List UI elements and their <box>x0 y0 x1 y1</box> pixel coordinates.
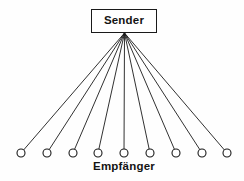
receiver-node[interactable] <box>223 149 231 157</box>
connection-line <box>24 33 125 150</box>
connection-line <box>125 33 150 149</box>
diagram-canvas: Sender Empfänger <box>0 0 244 181</box>
receiver-node[interactable] <box>69 149 77 157</box>
receiver-node[interactable] <box>120 149 128 157</box>
connection-line <box>125 33 175 149</box>
connection-line <box>49 33 124 150</box>
receiver-node[interactable] <box>94 149 102 157</box>
receiver-nodes-group <box>17 149 231 157</box>
receiver-node[interactable] <box>198 149 206 157</box>
connection-line <box>75 33 125 149</box>
receivers-group-label: Empfänger <box>0 161 244 173</box>
receiver-node[interactable] <box>146 149 154 157</box>
connection-line <box>99 33 125 149</box>
connection-lines-group <box>24 33 225 150</box>
receiver-node[interactable] <box>17 149 25 157</box>
sender-box[interactable]: Sender <box>91 9 157 33</box>
connection-line <box>125 33 200 150</box>
receiver-node[interactable] <box>172 149 180 157</box>
receiver-node[interactable] <box>43 149 51 157</box>
sender-label: Sender <box>104 15 144 27</box>
connection-line <box>125 33 225 150</box>
